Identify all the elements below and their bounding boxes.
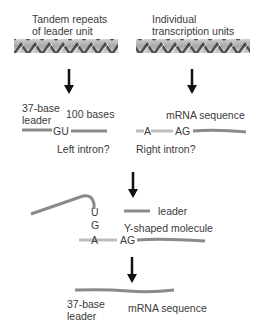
leader-label-line1: 37-base [22, 102, 60, 114]
ag-splice-site: AG [120, 234, 135, 246]
stem-base-a: A [91, 234, 98, 246]
arrow-down-icon [128, 172, 138, 198]
left-helix-label-line2: of leader unit [32, 25, 93, 37]
left-helix-label-line1: Tandem repeats [32, 13, 107, 25]
ag-splice-site: AG [175, 125, 190, 137]
length-label: 100 bases [66, 108, 114, 120]
final-leader-label-line1: 37-base [67, 298, 105, 310]
left-intron-caption: Left intron? [57, 143, 110, 155]
arrow-down-icon [127, 257, 137, 283]
right-dna-helix [136, 39, 250, 53]
spliced-mrna-strand [75, 290, 174, 292]
right-helix-label-line2: transcription units [152, 25, 234, 37]
diagram-canvas [0, 0, 259, 324]
arrow-down-icon [64, 69, 74, 94]
mrna-sequence-label: mRNA sequence [166, 109, 245, 121]
arrow-down-icon [187, 69, 197, 94]
gu-splice-site: GU [53, 125, 69, 137]
branch-a-base: A [144, 125, 151, 137]
leader-label-line2: leader [22, 114, 51, 126]
left-dna-helix [14, 39, 118, 53]
stem-base-g: G [91, 219, 99, 231]
y-shaped-molecule-caption: Y-shaped molecule [124, 222, 213, 234]
leader-label: leader [158, 205, 187, 217]
final-mrna-label: mRNA sequence [128, 302, 207, 314]
stem-base-u: U [91, 206, 99, 218]
right-transcript-strand [136, 130, 246, 132]
final-leader-label-line2: leader [67, 310, 96, 322]
right-helix-label-line1: Individual [152, 13, 196, 25]
y-shaped-molecule [31, 196, 205, 241]
right-intron-caption: Right intron? [136, 143, 196, 155]
